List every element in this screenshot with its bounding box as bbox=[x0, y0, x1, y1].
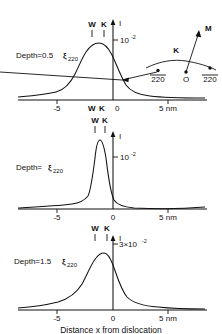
xtick-label-minus5-2: -5 bbox=[53, 213, 61, 222]
intensity-curve-2 bbox=[18, 140, 205, 209]
inset-label-origin: O bbox=[183, 75, 189, 84]
figure-root: W K Depth=0.5 ξ 220 I 10 -2 -5 0 5 nm W … bbox=[0, 0, 222, 334]
inset-point-right-reflection bbox=[208, 66, 211, 69]
depth-subscript-3: 220 bbox=[67, 262, 78, 268]
inset-incident-beam bbox=[0, 72, 122, 80]
marker-label-w-1: W bbox=[88, 20, 96, 29]
marker-label-w-2: W bbox=[91, 116, 99, 125]
marker-label-w-3: W bbox=[91, 224, 99, 233]
y-tick-label-2: 10 bbox=[120, 153, 129, 162]
depth-symbol-2: ξ bbox=[48, 163, 52, 172]
y-axis-arrow-3 bbox=[111, 235, 116, 241]
xtick-label-0-3: 0 bbox=[111, 314, 116, 323]
inset-ray-km bbox=[186, 32, 199, 72]
plot-panel-depth-1.0: W K Depth= ξ 220 I 10 -2 -5 0 5 nm bbox=[0, 112, 222, 224]
inset-incident-arrowhead bbox=[122, 77, 129, 82]
inset-ray-arrowhead bbox=[196, 30, 202, 37]
plot-panel-depth-0.5: W K Depth=0.5 ξ 220 I 10 -2 -5 0 5 nm W … bbox=[0, 0, 222, 112]
y-axis-arrow-2 bbox=[111, 131, 116, 137]
panel-3-svg: W K Depth=1.5 ξ 220 I 3×10 -2 -5 0 5 nm … bbox=[0, 224, 222, 334]
depth-symbol-3: ξ bbox=[62, 257, 66, 266]
y-tick-exponent-1: -2 bbox=[131, 34, 136, 40]
depth-subscript-2: 220 bbox=[53, 168, 64, 174]
y-axis-label-2: I bbox=[119, 132, 121, 141]
inset-label-right-reflection: 220 bbox=[203, 75, 217, 84]
y-axis-arrow-1 bbox=[111, 19, 116, 25]
plot-panel-depth-1.5: W K Depth=1.5 ξ 220 I 3×10 -2 -5 0 5 nm … bbox=[0, 224, 222, 334]
depth-label-2: Depth= bbox=[16, 163, 42, 172]
panel-2-svg: W K Depth= ξ 220 I 10 -2 -5 0 5 nm bbox=[0, 112, 222, 224]
xtick-label-5nm-3: 5 nm bbox=[159, 314, 177, 323]
y-tick-exponent-3: -2 bbox=[142, 238, 147, 244]
depth-label-3: Depth=1.5 bbox=[14, 257, 52, 266]
inset-point-origin bbox=[184, 70, 187, 73]
xtick-label-0-2: 0 bbox=[111, 213, 116, 222]
xtick-label-5nm-2: 5 nm bbox=[159, 213, 177, 222]
inset-point-left-reflection bbox=[156, 69, 159, 72]
inset-label-left-reflection: 220 bbox=[151, 75, 165, 84]
depth-subscript-1: 220 bbox=[68, 56, 79, 62]
y-axis-label-1: I bbox=[119, 19, 121, 28]
figure-xlabel: Distance x from dislocation bbox=[60, 325, 162, 334]
y-tick-exponent-2: -2 bbox=[131, 151, 136, 157]
depth-label-1: Depth=0.5 bbox=[16, 51, 54, 60]
panel-1-svg: W K Depth=0.5 ξ 220 I 10 -2 -5 0 5 nm W … bbox=[0, 0, 222, 112]
marker-label-k-1: K bbox=[101, 20, 107, 29]
y-tick-label-1: 10 bbox=[120, 36, 129, 45]
marker-label-k-2: K bbox=[102, 116, 108, 125]
y-tick-label-3: 3×10 bbox=[119, 240, 138, 249]
xtick-label-minus5-3: -5 bbox=[53, 314, 61, 323]
inset-ewald-arc bbox=[146, 60, 216, 70]
depth-symbol-1: ξ bbox=[63, 51, 67, 60]
inset-label-m: M bbox=[205, 24, 212, 33]
marker-label-k-3: K bbox=[104, 224, 110, 233]
inset-label-k: K bbox=[173, 46, 179, 55]
